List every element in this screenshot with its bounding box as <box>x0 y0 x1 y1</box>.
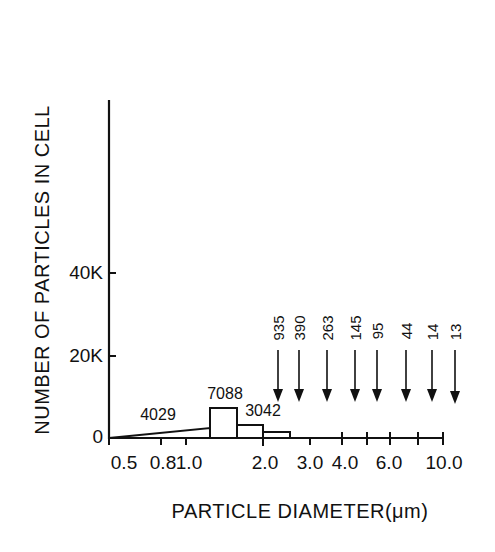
arrow-count-label: 263 <box>319 315 336 340</box>
x-tick-label-2.0: 2.0 <box>252 452 278 474</box>
bar-2.0-2.5 <box>263 432 290 438</box>
x-tick-label-10.0: 10.0 <box>426 452 463 474</box>
arrow-count-label: 13 <box>447 324 464 341</box>
arrow-count-label: 44 <box>398 323 415 340</box>
x-tick-label-1.0: 1.0 <box>176 452 202 474</box>
x-tick-label-6.0: 6.0 <box>376 452 402 474</box>
arrow-count-label: 145 <box>347 315 364 340</box>
arrow-count-label: 935 <box>270 315 287 340</box>
x-tick-label-0.5: 0.5 <box>111 452 137 474</box>
bar-1.6-2.0 <box>237 425 263 438</box>
bar-value-label: 7088 <box>207 385 243 403</box>
arrow-count-label: 14 <box>424 324 441 341</box>
bar-value-label: 4029 <box>140 406 176 424</box>
bar-1.3-1.6 <box>210 408 237 438</box>
y-tick-label-0: 0 <box>43 426 103 448</box>
x-tick-label-0.8: 0.8 <box>150 452 176 474</box>
arrows <box>273 350 460 404</box>
y-tick-label-40k: 40K <box>43 262 103 284</box>
x-tick-label-4.0: 4.0 <box>332 452 358 474</box>
x-tick-label-3.0: 3.0 <box>297 452 323 474</box>
bar-value-label: 3042 <box>245 402 281 420</box>
bar-0.5-1.3 <box>109 428 210 438</box>
arrow-count-label: 95 <box>369 323 386 340</box>
x-axis-title: PARTICLE DIAMETER(μm) <box>172 500 429 523</box>
arrow-count-label: 390 <box>291 315 308 340</box>
y-tick-label-20k: 20K <box>43 345 103 367</box>
